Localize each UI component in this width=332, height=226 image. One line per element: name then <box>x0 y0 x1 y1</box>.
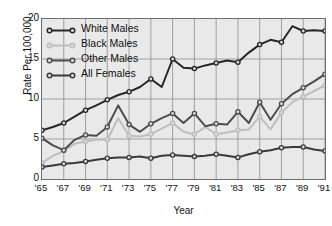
legend-line-marker-icon <box>46 37 76 48</box>
legend-line-marker-icon <box>46 52 76 63</box>
legend-line-marker-icon <box>46 67 76 78</box>
line-chart-figure: Rate Per 100,000 05101520 '65'67'69'71'7… <box>0 0 332 226</box>
legend-item-label: All Females <box>81 67 136 79</box>
legend: White MalesBlack MalesOther MalesAll Fem… <box>46 21 139 79</box>
legend-item-all-females: All Females <box>46 66 139 79</box>
legend-item-black-males: Black Males <box>46 36 139 49</box>
legend-item-label: Black Males <box>81 37 138 49</box>
legend-item-other-males: Other Males <box>46 51 139 64</box>
legend-item-label: White Males <box>81 22 139 34</box>
legend-item-label: Other Males <box>81 52 138 64</box>
legend-item-white-males: White Males <box>46 21 139 34</box>
x-axis-title: Year <box>41 205 326 216</box>
x-tick-label: '91 <box>309 183 332 193</box>
legend-line-marker-icon <box>46 22 76 33</box>
